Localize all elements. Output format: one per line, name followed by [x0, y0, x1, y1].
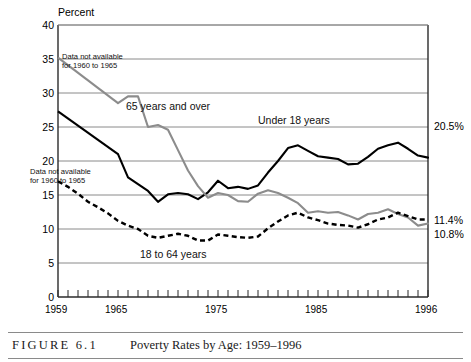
y-tick-label: 20: [20, 156, 54, 166]
y-tick: 20: [18, 156, 54, 166]
annotation-line-1: Data not available: [30, 167, 91, 176]
endpoint-value-18-to-64: 11.4%: [434, 214, 463, 226]
x-tick-label: 1975: [205, 304, 227, 315]
caption-rule-bottom: [8, 358, 463, 359]
x-axis-ticks: [58, 290, 428, 297]
x-tick-label: 1959: [45, 304, 67, 315]
series-label-65-and-over: 65 years and over: [126, 100, 210, 112]
annotation-note-65-and-over: Data not available for 1960 to 1965: [62, 52, 123, 71]
endpoint-value-65-and-over: 10.8%: [434, 228, 464, 240]
x-tick-label: 1965: [105, 304, 127, 315]
x-tick-label: 1996: [415, 304, 437, 315]
series-label-under-18: Under 18 years: [258, 114, 330, 126]
chart-svg: [0, 0, 471, 320]
figure-title-label: Poverty Rates by Age: 1959–1996: [130, 338, 302, 353]
figure-container: Percent 4035302520151050 195919651975198…: [0, 0, 471, 362]
series-line: [118, 143, 428, 202]
figure-caption-bar: FIGURE 6.1 Poverty Rates by Age: 1959–19…: [0, 332, 471, 362]
annotation-line-2: for 1960 to 1965: [30, 176, 91, 185]
y-tick: 40: [18, 20, 54, 30]
annotation-line-2: for 1960 to 1965: [62, 61, 123, 70]
figure-number-label: FIGURE 6.1: [12, 338, 98, 353]
y-tick: 10: [18, 224, 54, 234]
y-tick: 5: [18, 258, 54, 268]
series-line: [58, 181, 428, 240]
y-tick: 15: [18, 190, 54, 200]
x-tick-label: 1985: [305, 304, 327, 315]
annotation-line-1: Data not available: [62, 52, 123, 61]
y-tick: 0: [18, 292, 54, 302]
data-series-lines: [58, 58, 428, 241]
caption-rule-top: [8, 332, 463, 333]
y-tick-label: 10: [20, 224, 54, 234]
y-tick-label: 30: [20, 88, 54, 98]
endpoint-value-under-18: 20.5%: [434, 120, 464, 132]
y-tick-label: 15: [20, 190, 54, 200]
y-tick-label: 25: [20, 122, 54, 132]
y-tick-label: 40: [20, 20, 54, 30]
y-axis-title: Percent: [58, 6, 94, 18]
y-tick-label: 0: [20, 292, 54, 302]
chart-plot-area: Percent 4035302520151050 195919651975198…: [0, 0, 471, 320]
y-tick: 25: [18, 122, 54, 132]
y-tick: 35: [18, 54, 54, 64]
series-label-18-to-64: 18 to 64 years: [140, 248, 207, 260]
annotation-note-under-18: Data not available for 1960 to 1965: [30, 167, 91, 186]
y-tick-label: 35: [20, 54, 54, 64]
series-gap-connector: [58, 111, 118, 154]
y-tick-label: 5: [20, 258, 54, 268]
y-tick: 30: [18, 88, 54, 98]
